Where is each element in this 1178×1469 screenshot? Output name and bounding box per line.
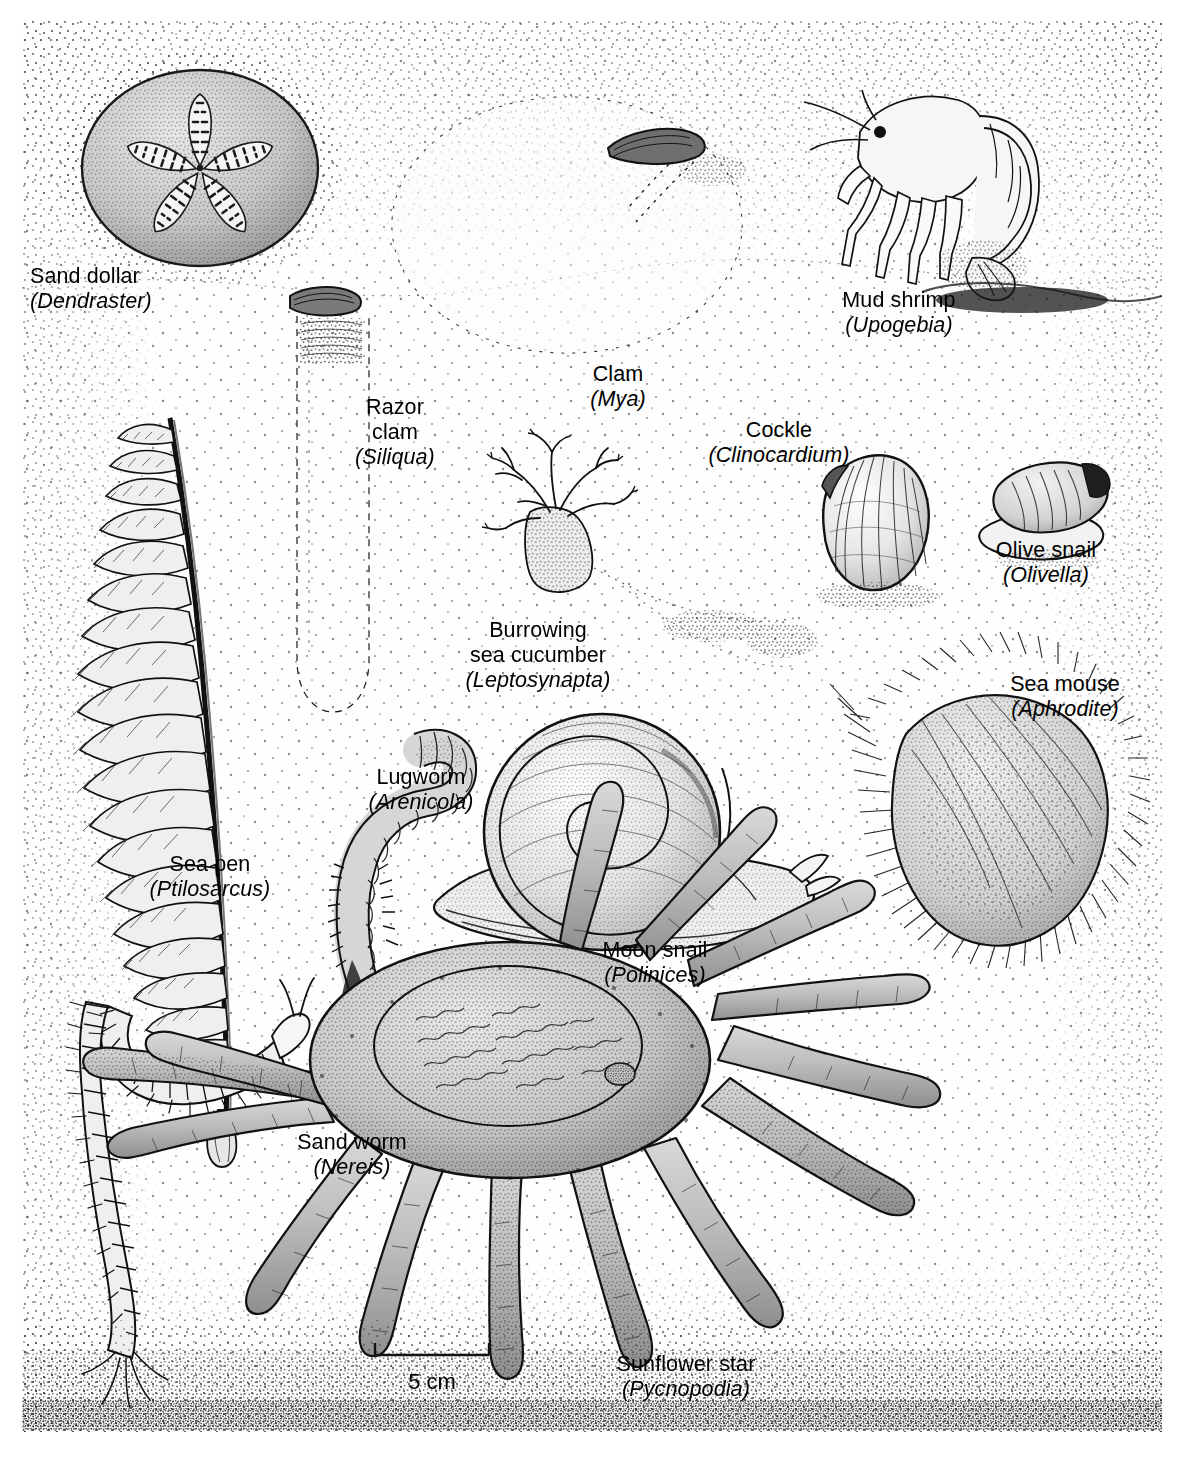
label-sea-mouse-genus: (Aphrodite) xyxy=(990,697,1140,722)
label-razor-clam: Razor clam (Siliqua) xyxy=(340,395,450,470)
label-cockle: Cockle (Clinocardium) xyxy=(694,418,864,468)
label-moon-snail: Moon snail (Polinices) xyxy=(580,938,730,988)
figure-page: Sand dollar (Dendraster) Mud shrimp (Upo… xyxy=(0,0,1178,1469)
label-olive-snail-common: Olive snail xyxy=(970,538,1122,563)
label-sea-pen-genus: (Ptilosarcus) xyxy=(130,877,290,902)
label-sea-cucumber-genus: (Leptosynapta) xyxy=(438,668,638,693)
label-sand-worm: Sand worm (Nereis) xyxy=(276,1130,428,1180)
label-mud-shrimp-common: Mud shrimp xyxy=(809,288,989,313)
label-cockle-common: Cockle xyxy=(694,418,864,443)
label-sunflower-star: Sunflower star (Pycnopodia) xyxy=(586,1352,786,1402)
label-olive-snail: Olive snail (Olivella) xyxy=(970,538,1122,588)
label-cockle-genus: (Clinocardium) xyxy=(694,443,864,468)
label-olive-snail-genus: (Olivella) xyxy=(970,563,1122,588)
label-sand-dollar-common: Sand dollar xyxy=(30,264,152,289)
scale-bar-label: 5 cm xyxy=(372,1369,492,1395)
label-lugworm-common: Lugworm xyxy=(350,765,492,790)
label-sand-dollar-genus: (Dendraster) xyxy=(30,289,152,314)
label-sea-cucumber-common-2: sea cucumber xyxy=(438,643,638,668)
illustration-plate xyxy=(22,20,1162,1432)
label-lugworm: Lugworm (Arenicola) xyxy=(350,765,492,815)
label-sea-pen: Sea pen (Ptilosarcus) xyxy=(130,852,290,902)
label-clam-genus: (Mya) xyxy=(568,387,668,412)
label-mud-shrimp-genus: (Upogebia) xyxy=(809,313,989,338)
organism-sand-dollar xyxy=(60,50,340,286)
label-sea-pen-common: Sea pen xyxy=(130,852,290,877)
scale-bar-graphic xyxy=(372,1342,492,1362)
label-burrowing-sea-cucumber: Burrowing sea cucumber (Leptosynapta) xyxy=(438,618,638,693)
label-razor-clam-common-1: Razor xyxy=(340,395,450,420)
label-razor-clam-genus: (Siliqua) xyxy=(340,445,450,470)
label-moon-snail-genus: (Polinices) xyxy=(580,963,730,988)
label-sea-mouse-common: Sea mouse xyxy=(990,672,1140,697)
label-moon-snail-common: Moon snail xyxy=(580,938,730,963)
label-clam-common: Clam xyxy=(568,362,668,387)
label-sea-mouse: Sea mouse (Aphrodite) xyxy=(990,672,1140,722)
label-sand-dollar: Sand dollar (Dendraster) xyxy=(30,264,152,314)
label-mud-shrimp: Mud shrimp (Upogebia) xyxy=(809,288,989,338)
label-sea-cucumber-common-1: Burrowing xyxy=(438,618,638,643)
scale-bar: 5 cm xyxy=(372,1342,492,1395)
label-clam: Clam (Mya) xyxy=(568,362,668,412)
label-sunflower-star-genus: (Pycnopodia) xyxy=(586,1377,786,1402)
label-sand-worm-common: Sand worm xyxy=(276,1130,428,1155)
illustration-svg xyxy=(22,20,1162,1432)
label-razor-clam-common-2: clam xyxy=(340,420,450,445)
label-lugworm-genus: (Arenicola) xyxy=(350,790,492,815)
label-sand-worm-genus: (Nereis) xyxy=(276,1155,428,1180)
label-sunflower-star-common: Sunflower star xyxy=(586,1352,786,1377)
